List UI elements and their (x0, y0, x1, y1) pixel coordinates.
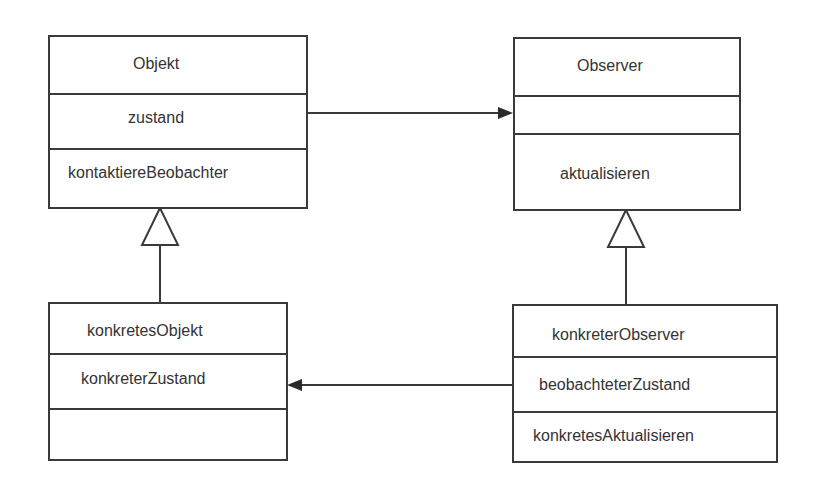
attributes-compartment (515, 95, 739, 135)
attribute: konkreterZustand (81, 370, 206, 388)
class-observer: Observer aktualisieren (513, 37, 741, 211)
attribute: zustand (128, 109, 184, 127)
operations-compartment: konkretesAktualisieren (514, 411, 776, 463)
operation: aktualisieren (560, 165, 650, 183)
operations-compartment (50, 408, 286, 461)
class-konkretes-objekt: konkretesObjekt konkreterZustand (48, 302, 288, 461)
class-objekt: Objekt zustand kontaktiereBeobachter (48, 35, 308, 209)
operation: kontaktiereBeobachter (68, 164, 228, 182)
attribute: beobachteterZustand (539, 376, 690, 394)
class-name-compartment: Objekt (50, 37, 306, 95)
class-name: konkretesObjekt (87, 322, 203, 340)
class-name-compartment: Observer (515, 39, 739, 97)
operations-compartment: kontaktiereBeobachter (50, 148, 306, 209)
attributes-compartment: beobachteterZustand (514, 356, 776, 413)
arrowhead-filled-icon (498, 107, 513, 119)
class-name: konkreterObserver (552, 326, 685, 344)
class-name: Observer (577, 57, 643, 75)
arrowhead-filled-icon (287, 379, 302, 391)
class-name: Objekt (133, 55, 179, 73)
class-name-compartment: konkreterObserver (514, 306, 776, 358)
attributes-compartment: konkreterZustand (50, 353, 286, 410)
inheritance-triangle-icon (142, 208, 178, 245)
inheritance-triangle-icon (608, 210, 644, 247)
attributes-compartment: zustand (50, 93, 306, 150)
operations-compartment: aktualisieren (515, 133, 739, 211)
operation: konkretesAktualisieren (533, 427, 694, 445)
class-name-compartment: konkretesObjekt (50, 304, 286, 355)
class-konkreter-observer: konkreterObserver beobachteterZustand ko… (512, 304, 778, 463)
